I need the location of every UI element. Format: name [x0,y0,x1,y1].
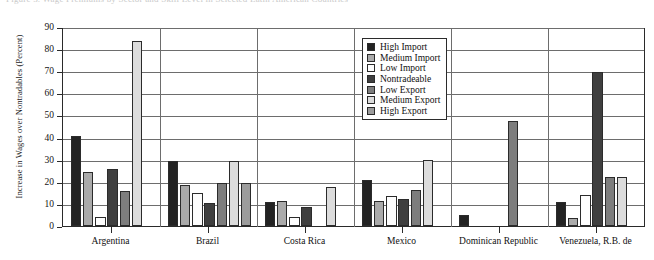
bar-brazil-high-import [168,161,178,226]
legend-swatch-icon [367,54,375,62]
bar-mexico-nontradeable [398,199,408,226]
category-separator [548,28,549,227]
bar-venezuela-r-b-de-high-import [556,202,566,226]
x-axis-tick-mark [208,227,209,233]
y-axis-tick-mark [57,205,62,206]
y-axis-tick-label: 60 [32,89,54,99]
y-axis-tick-mark [57,139,62,140]
bar-mexico-medium-export [423,160,433,226]
chart-legend: High ImportMedium ImportLow ImportNontra… [362,38,447,120]
bar-costa-rica-high-import [265,202,275,226]
legend-item-high-export[interactable]: High Export [367,106,440,117]
y-axis-tick-label: 50 [32,111,54,121]
bar-venezuela-r-b-de-medium-export [617,177,627,226]
bar-brazil-medium-import [180,185,190,226]
top-caption-clipped: Figure 3. Wage Premiums by Sector and Sk… [0,0,654,11]
legend-item-nontradeable[interactable]: Nontradeable [367,74,440,85]
y-axis-tick-mark [57,116,62,117]
bar-brazil-medium-export [229,161,239,226]
bar-costa-rica-nontradeable [301,207,311,226]
x-axis-tick-mark [111,227,112,233]
bar-argentina-nontradeable [107,169,117,226]
y-axis-tick-label: 10 [32,200,54,210]
legend-swatch-icon [367,96,375,104]
bar-argentina-low-export [120,191,130,226]
bar-venezuela-r-b-de-low-import [580,195,590,226]
x-axis-tick-mark [305,227,306,233]
bar-venezuela-r-b-de-low-export [605,177,615,226]
x-axis-tick-mark [596,227,597,233]
top-caption-text: Figure 3. Wage Premiums by Sector and Sk… [0,0,654,4]
y-axis-tick-label: 0 [32,222,54,232]
x-axis-tick-mark [402,227,403,233]
bar-mexico-high-import [362,180,372,226]
legend-swatch-icon [367,64,375,72]
category-separator [354,28,355,227]
category-separator [160,28,161,227]
chart-container: Figure 3. Wage Premiums by Sector and Sk… [0,0,654,260]
bar-brazil-high-export [241,183,251,226]
legend-label: High Export [380,106,427,116]
y-axis-tick-mark [57,72,62,73]
bar-argentina-medium-import [83,172,93,226]
legend-item-high-import[interactable]: High Import [367,42,440,53]
bar-dominican-republic-high-import [459,215,469,226]
legend-swatch-icon [367,43,375,51]
bar-argentina-low-import [95,217,105,226]
y-axis-tick-label: 40 [32,134,54,144]
bar-mexico-low-export [411,190,421,226]
bar-brazil-low-export [217,183,227,226]
y-axis-title: Increase in Wages over Nontradables (Per… [15,12,24,222]
y-axis-tick-label: 20 [32,178,54,188]
y-axis-tick-label: 70 [32,67,54,77]
legend-item-low-export[interactable]: Low Export [367,84,440,95]
legend-item-medium-export[interactable]: Medium Export [367,95,440,106]
category-separator [451,28,452,227]
x-axis-tick-mark [499,227,500,233]
legend-label: Medium Import [380,53,440,63]
legend-swatch-icon [367,86,375,94]
legend-label: Medium Export [380,95,440,105]
y-axis-tick-mark [57,94,62,95]
y-axis-tick-mark [57,227,62,228]
legend-swatch-icon [367,107,375,115]
y-axis-tick-label: 90 [32,23,54,33]
bar-mexico-low-import [386,196,396,226]
y-axis-tick-mark [57,50,62,51]
bar-dominican-republic-low-export [508,121,518,226]
y-axis-tick-label: 30 [32,156,54,166]
legend-item-low-import[interactable]: Low Import [367,63,440,74]
bar-venezuela-r-b-de-medium-import [568,218,578,226]
bar-costa-rica-medium-import [277,201,287,226]
plot-area [62,28,644,227]
legend-label: High Import [380,42,427,52]
bar-argentina-medium-export [132,41,142,226]
bar-costa-rica-low-import [289,217,299,226]
x-axis-category-label: Venezuela, R.B. de [535,236,654,246]
bar-brazil-nontradeable [204,203,214,226]
legend-label: Low Import [380,63,426,73]
bar-argentina-high-import [71,136,81,226]
plot-right-edge [644,28,645,227]
y-axis-tick-mark [57,28,62,29]
legend-item-medium-import[interactable]: Medium Import [367,53,440,64]
bar-mexico-medium-import [374,201,384,226]
legend-label: Low Export [380,85,426,95]
legend-label: Nontradeable [380,74,431,84]
bar-venezuela-r-b-de-nontradeable [592,72,602,226]
y-axis-tick-label: 80 [32,45,54,55]
category-separator [257,28,258,227]
bar-costa-rica-medium-export [326,187,336,226]
y-axis-tick-mark [57,183,62,184]
bar-brazil-low-import [192,193,202,226]
legend-swatch-icon [367,75,375,83]
y-axis-tick-mark [57,161,62,162]
